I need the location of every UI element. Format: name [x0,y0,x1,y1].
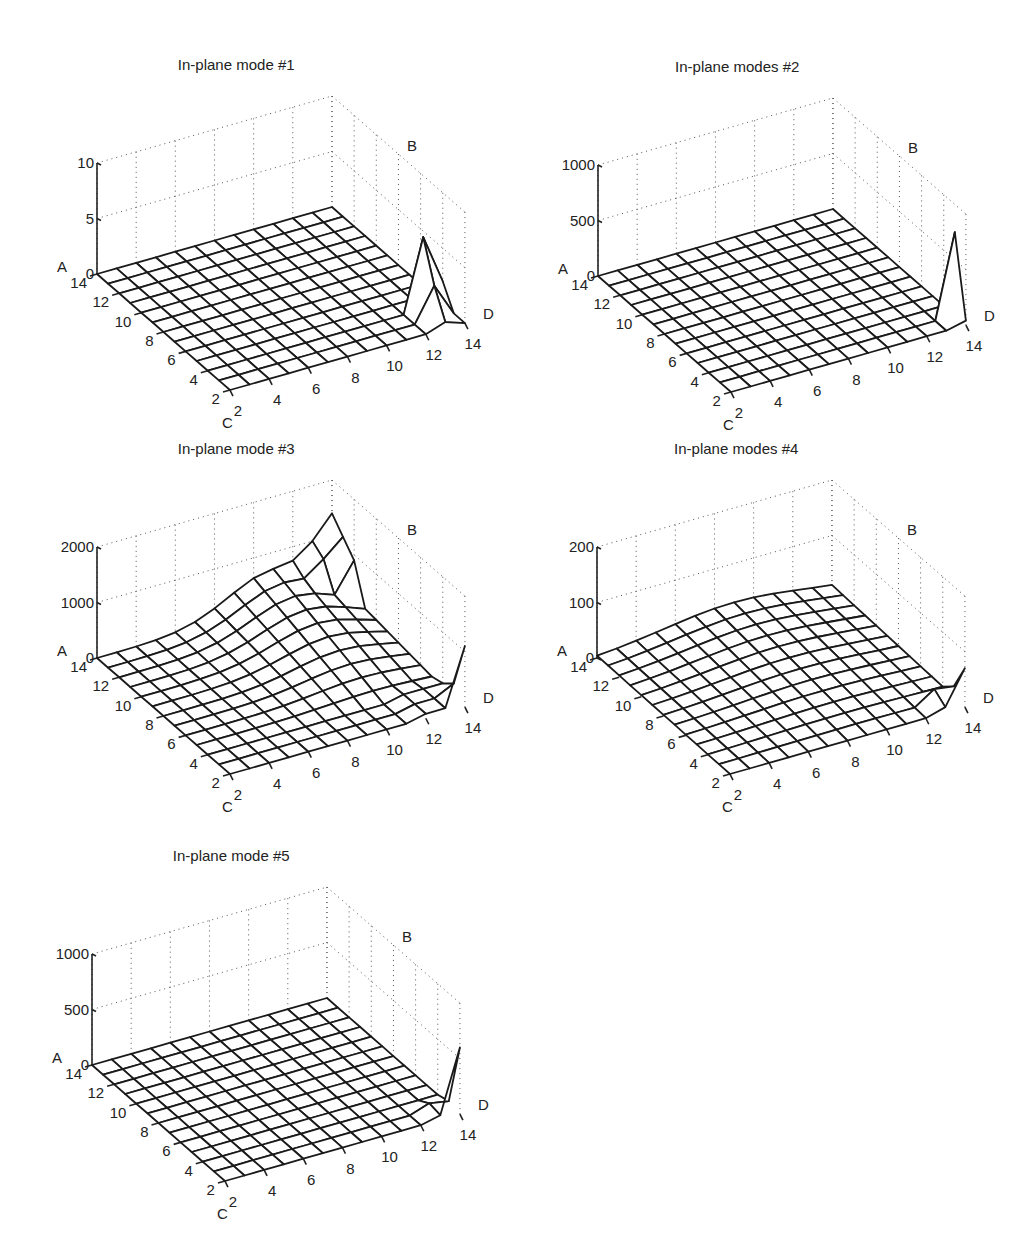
bottom-axis-tick-label: 8 [346,1160,354,1177]
bottom-axis-tick-label: 4 [268,1182,276,1199]
surface-mesh [92,998,460,1181]
bottom-axis-tick-label: 6 [307,1171,315,1188]
left-axis-tick-label: 2 [207,1181,215,1198]
left-axis-tick-label: 4 [184,1162,192,1179]
bottom-axis-tick-label: 12 [420,1137,437,1154]
left-axis-tick-label: 12 [87,1084,104,1101]
axis-label-c: C [217,1205,228,1222]
axis-label-a: A [52,1049,62,1066]
axis-label-d: D [478,1096,489,1113]
bottom-axis-tick-label: 10 [381,1148,398,1165]
axis-label-b: B [402,928,412,945]
bottom-axis-tick-label: 2 [229,1193,237,1210]
z-tick-label: 1000 [56,945,89,962]
left-axis-tick-label: 6 [162,1142,170,1159]
z-tick-label: 500 [64,1001,89,1018]
left-axis-tick-label: 8 [140,1123,148,1140]
surface-plot: 0500100014121086422468101214ABCD [0,0,1034,1244]
bottom-axis-tick-label: 14 [460,1126,477,1143]
left-axis-tick-label: 10 [110,1104,127,1121]
left-axis-tick-label: 14 [65,1065,82,1082]
